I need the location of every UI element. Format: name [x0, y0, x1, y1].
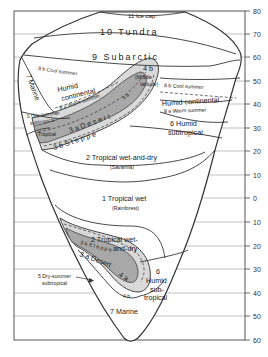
axis-ticks [245, 11, 250, 340]
svg-text:80: 80 [253, 8, 261, 15]
label-rainforest-1: 1 Tropical wet [102, 194, 146, 203]
label-highland-4b-north: 4 b [143, 64, 153, 73]
label-savanna-north-2: (Savanna) [110, 164, 134, 170]
label-dry-summer-south-2: subtropical [42, 280, 67, 286]
svg-text:30: 30 [253, 266, 261, 273]
label-marine-south: 7 Marine [110, 307, 138, 316]
svg-text:30: 30 [253, 125, 261, 132]
label-tundra: 10 Tundra [100, 27, 159, 37]
climate-diagram: 11 Ice cap 10 Tundra 9 Subarctic 7 Marin… [0, 0, 268, 357]
label-dry-summer-south-1: 5 Dry-summer [38, 273, 71, 279]
label-subarctic: 9 Subarctic [92, 52, 159, 62]
label-middle-latitude-1: (Middle [135, 74, 152, 80]
label-savanna-south-2: and-dry [113, 244, 138, 253]
svg-text:40: 40 [253, 290, 261, 297]
svg-text:10: 10 [253, 172, 261, 179]
svg-text:40: 40 [253, 101, 261, 108]
label-tropical-desert: (Tropical [36, 131, 56, 137]
label-humid-subtropical-south-1: 6 [156, 267, 160, 276]
svg-text:50: 50 [253, 313, 261, 320]
svg-text:50: 50 [253, 78, 261, 85]
svg-text:20: 20 [253, 243, 261, 250]
label-ice-cap: 11 Ice cap [128, 13, 156, 19]
svg-text:60: 60 [253, 54, 261, 61]
label-humid-subtropical-north-2: subtropical [168, 128, 203, 137]
label-middle-latitude-2: latitude) [140, 81, 159, 87]
svg-text:20: 20 [253, 148, 261, 155]
label-humid-subtropical-south-4: tropical [144, 293, 168, 302]
label-humid-subtropical-north-1: 6 Humid [170, 119, 197, 128]
svg-text:60: 60 [253, 337, 261, 344]
label-highland-4b-south: 4 b [123, 293, 130, 299]
label-savanna-north-1: 2 Tropical wet-and-dry [86, 153, 158, 162]
label-humid-subtropical-south-2: Humid [146, 276, 167, 285]
label-rainforest-2: (Rainforest) [112, 205, 139, 211]
svg-text:70: 70 [253, 31, 261, 38]
axis-labels: 80 70 60 50 40 30 20 10 0 10 20 30 40 50… [253, 8, 261, 344]
svg-text:0: 0 [253, 195, 257, 202]
svg-text:10: 10 [253, 219, 261, 226]
